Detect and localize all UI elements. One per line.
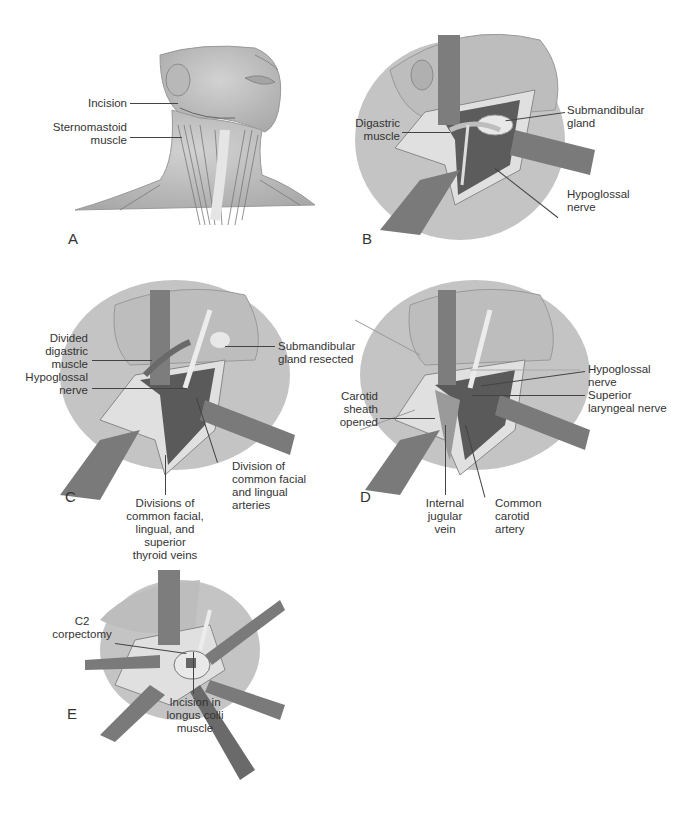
internal-jugular-leader (445, 425, 446, 495)
panel-letter-b: B (362, 230, 372, 247)
divided-digastric-leader (92, 360, 152, 361)
panel-d: Carotid sheath opened Hypoglossal nerve … (350, 270, 699, 540)
digastric-leader (402, 132, 450, 133)
panel-letter-e: E (67, 705, 77, 722)
label-carotid-sheath: Carotid sheath opened (328, 390, 378, 429)
label-divisions-veins: Divisions of common facial, lingual, and… (120, 497, 210, 562)
panel-letter-d: D (360, 488, 371, 505)
label-digastric: Digastric muscle (350, 117, 400, 143)
panel-letter-c: C (65, 488, 76, 505)
submandibular-resected-leader (225, 346, 275, 347)
sternomastoid-leader (130, 137, 182, 138)
carotid-sheath-leader (380, 418, 435, 419)
hypoglossal-c-leader (92, 388, 187, 389)
label-hypoglossal: Hypoglossal nerve (567, 188, 630, 214)
label-division-arteries: Division of common facial and lingual ar… (232, 460, 306, 512)
panel-letter-a: A (68, 230, 78, 247)
label-submandibular: Submandibular gland (567, 104, 644, 130)
panel-e: C2 corpectomy Incision in longus colli m… (0, 570, 350, 829)
label-incision: Incision (40, 97, 127, 110)
divisions-veins-leader (165, 455, 166, 495)
panel-a: Incision Sternomastoid muscle A (0, 0, 350, 265)
superior-laryngeal-leader (472, 395, 585, 396)
label-common-carotid: Common carotid artery (495, 497, 542, 536)
label-sternomastoid: Sternomastoid muscle (30, 121, 127, 147)
label-internal-jugular: Internal jugular vein (422, 497, 468, 536)
panel-c: Divided digastric muscle Hypoglossal ner… (0, 270, 350, 540)
label-divided-digastric: Divided digastric muscle (20, 332, 88, 371)
label-hypoglossal-d: Hypoglossal nerve (588, 363, 651, 389)
label-c2-corpectomy: C2 corpectomy (52, 615, 112, 641)
label-longus-colli: Incision in longus colli muscle (160, 696, 230, 735)
longus-colli-leader (193, 652, 194, 694)
label-superior-laryngeal: Superior laryngeal nerve (588, 389, 667, 415)
panel-b: Digastric muscle Submandibular gland Hyp… (350, 0, 699, 265)
incision-leader (130, 103, 178, 104)
label-hypoglossal-c: Hypoglossal nerve (20, 371, 88, 397)
